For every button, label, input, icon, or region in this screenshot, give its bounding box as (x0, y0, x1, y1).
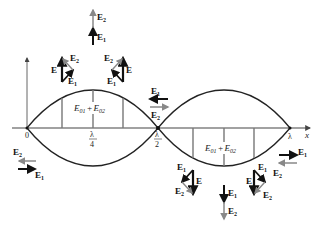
standing-wave-diagram: E01+E02 E01+E02 0 λ 4 λ 2 λ x E2 E1 E E2 (0, 0, 319, 227)
svg-text:λ: λ (90, 130, 94, 139)
svg-text:E1: E1 (151, 86, 160, 97)
axis-labels: 0 λ 4 λ 2 λ x (25, 130, 309, 149)
vector-triangle-bottom-right: E E1 E2 (246, 162, 272, 201)
svg-text:E2: E2 (151, 110, 160, 121)
svg-text:E: E (246, 176, 252, 186)
svg-text:E: E (126, 65, 132, 75)
svg-text:E2: E2 (104, 53, 113, 64)
svg-text:E1: E1 (107, 76, 116, 87)
svg-text:E1: E1 (68, 76, 77, 87)
svg-text:E2: E2 (97, 12, 106, 23)
envelope-label-first: E01+E02 (72, 102, 114, 114)
svg-text:E1: E1 (97, 32, 106, 43)
svg-text:E2: E2 (175, 186, 184, 197)
x-axis-label: x (304, 130, 309, 140)
vector-triangle-bottom-left: E E1 E2 (175, 162, 202, 197)
svg-text:E2: E2 (70, 53, 79, 64)
tick-lambda-quarter: λ 4 (89, 130, 97, 149)
svg-text:E1: E1 (177, 162, 186, 173)
svg-text:2: 2 (155, 140, 159, 149)
svg-text:E1: E1 (228, 188, 237, 199)
vector-triangle-top-right: E E2 E1 (104, 53, 132, 87)
origin-label: 0 (25, 131, 29, 140)
svg-text:E1: E1 (298, 147, 307, 158)
vector-pair-bottom: E1 E2 (224, 185, 237, 219)
envelope-upper-second-loop (158, 90, 290, 128)
vector-pair-top: E2 E1 (93, 10, 106, 45)
svg-text:E: E (196, 176, 202, 186)
svg-text:E2: E2 (13, 147, 22, 158)
vector-pair-node-half: E1 E2 (150, 86, 168, 130)
vector-triangle-top-left: E E2 E1 (51, 53, 79, 87)
envelope-label-second: E01+E02 (203, 142, 245, 154)
svg-text:E: E (51, 65, 57, 75)
svg-text:E1: E1 (258, 162, 267, 173)
tick-lambda: λ (288, 132, 292, 141)
svg-text:E2: E2 (273, 168, 282, 179)
svg-text:E2: E2 (228, 206, 237, 217)
tick-lambda-half: λ 2 (154, 130, 162, 149)
svg-text:E1: E1 (35, 170, 44, 181)
svg-text:λ: λ (155, 130, 159, 139)
svg-text:E2: E2 (263, 190, 272, 201)
svg-text:4: 4 (90, 140, 94, 149)
